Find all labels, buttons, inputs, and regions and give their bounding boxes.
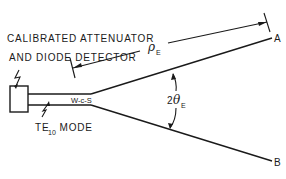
dimension-line-right	[168, 22, 267, 43]
slant-length-subscript: E	[156, 49, 161, 56]
mode-label-subscript: 10	[48, 129, 56, 136]
detector-box	[10, 86, 28, 112]
dimension-arrowhead-left	[73, 63, 82, 68]
detector-label-line1: CALIBRATED ATTENUATOR	[7, 33, 154, 44]
mode-leader-arrowhead	[46, 101, 50, 106]
detector-leader-arrow	[15, 70, 20, 86]
horn-lower-wall	[91, 105, 272, 161]
flare-angle-arrowhead-lower	[168, 123, 173, 129]
flare-angle-symbol: θ	[173, 93, 181, 107]
flare-angle-subscript: E	[181, 102, 186, 109]
dimension-arrowhead-right	[258, 22, 267, 26]
point-b-label: B	[274, 157, 281, 168]
detector-label-line2: AND DIODE DETECTOR	[9, 52, 137, 63]
mode-label-suffix: MODE	[56, 122, 93, 133]
horn-antenna-diagram: CALIBRATED ATTENUATOR AND DIODE DETECTOR…	[0, 0, 286, 179]
flare-angle-arrowhead-upper	[171, 73, 176, 80]
point-a-label: A	[274, 33, 281, 44]
waveguide-transition-label: W-c-S	[71, 96, 92, 105]
horn-upper-wall	[91, 38, 272, 94]
slant-length-symbol: ρ	[147, 40, 155, 54]
